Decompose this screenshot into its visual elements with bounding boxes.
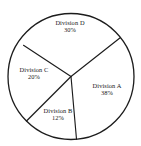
slice-label-division-b-value: 12% bbox=[36, 114, 80, 121]
slice-label-division-c: Division C 20% bbox=[12, 66, 56, 81]
slice-label-division-c-value: 20% bbox=[12, 73, 56, 80]
slice-label-division-a-name: Division A bbox=[85, 82, 129, 89]
pie-chart-figure: Division D 30% Division A 38% Division C… bbox=[0, 0, 141, 146]
slice-label-division-a-value: 38% bbox=[85, 89, 129, 96]
slice-label-division-d-name: Division D bbox=[48, 19, 92, 26]
slice-label-division-d: Division D 30% bbox=[48, 19, 92, 34]
slice-label-division-a: Division A 38% bbox=[85, 82, 129, 97]
slice-label-division-d-value: 30% bbox=[48, 26, 92, 33]
slice-label-division-b-name: Division B bbox=[36, 107, 80, 114]
slice-label-division-c-name: Division C bbox=[12, 66, 56, 73]
slice-label-division-b: Division B 12% bbox=[36, 107, 80, 122]
